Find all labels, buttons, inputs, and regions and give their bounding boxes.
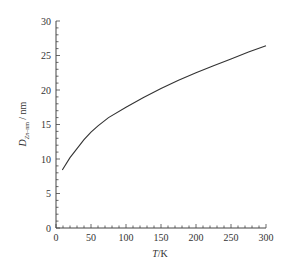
x-axis-label: T/K xyxy=(152,248,168,259)
x-tick-label: 250 xyxy=(224,232,239,243)
y-tick-label: 25 xyxy=(41,50,51,61)
line-chart: 050100150200250300051015202530 T/K DZn–n… xyxy=(0,0,292,269)
data-curve xyxy=(62,46,266,170)
svg-text:DZn–nm / nm: DZn–nm / nm xyxy=(17,101,30,147)
y-axis-label: DZn–nm / nm xyxy=(17,101,30,147)
tick-labels: 050100150200250300051015202530 xyxy=(41,16,274,244)
y-tick-label: 20 xyxy=(41,85,51,96)
y-tick-label: 10 xyxy=(41,154,51,165)
y-tick-label: 30 xyxy=(41,16,51,27)
x-tick-label: 150 xyxy=(154,232,169,243)
y-tick-label: 0 xyxy=(46,223,51,234)
x-tick-label: 200 xyxy=(189,232,204,243)
x-tick-label: 300 xyxy=(259,232,274,243)
y-tick-label: 15 xyxy=(41,119,51,130)
y-tick-label: 5 xyxy=(46,188,51,199)
x-tick-label: 100 xyxy=(119,232,134,243)
axes xyxy=(56,21,266,228)
x-tick-label: 0 xyxy=(54,232,59,243)
ticks xyxy=(56,21,266,228)
x-tick-label: 50 xyxy=(86,232,96,243)
